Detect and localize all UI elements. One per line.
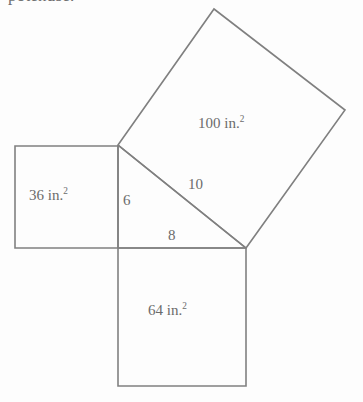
- square-64-area-label: 64 in.2: [148, 303, 187, 318]
- pythagorean-figure: potenuse. 36 in.2 100 in.2 64 in.2 6 8 1…: [0, 0, 363, 402]
- square-100-area-exponent: 2: [240, 114, 245, 124]
- square-100-area-value: 100 in.: [198, 115, 240, 131]
- triangle-side-label-10: 10: [188, 177, 203, 192]
- triangle-side-label-6: 6: [123, 193, 131, 208]
- square-36-area-label: 36 in.2: [29, 188, 68, 203]
- square-36-area-exponent: 2: [63, 186, 68, 196]
- square-100-area-label: 100 in.2: [198, 116, 244, 131]
- triangle-hypotenuse: [118, 145, 246, 248]
- triangle-side-label-8: 8: [168, 228, 176, 243]
- square-64-area-value: 64 in.: [148, 302, 182, 318]
- square-36-area-value: 36 in.: [29, 187, 63, 203]
- square-64-area-exponent: 2: [182, 301, 187, 311]
